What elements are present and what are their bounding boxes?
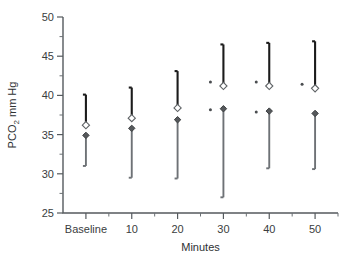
x-axis-tick-label: Baseline <box>65 223 107 235</box>
significance-marker <box>209 80 212 83</box>
y-axis-tick-label: 40 <box>42 89 54 101</box>
significance-marker <box>255 80 258 83</box>
filled-diamond-marker <box>174 117 180 123</box>
open-diamond-marker <box>311 85 318 92</box>
y-axis-tick-label: 25 <box>42 207 54 219</box>
open-diamond-marker <box>174 104 181 111</box>
axis-lines <box>63 17 338 213</box>
x-axis-tick-label: 40 <box>263 223 275 235</box>
y-axis-tick-label: 35 <box>42 129 54 141</box>
filled-diamond-marker <box>266 108 272 114</box>
open-diamond-marker <box>82 122 89 129</box>
y-axis-tick-label: 45 <box>42 50 54 62</box>
filled-diamond-marker <box>312 110 318 116</box>
pco2-scatter-chart: 253035404550Baseline1020304050MinutesPCO… <box>0 0 347 255</box>
significance-marker <box>255 111 258 114</box>
significance-marker <box>301 83 304 86</box>
open-diamond-marker <box>128 115 135 122</box>
open-diamond-marker <box>220 82 227 89</box>
y-axis-tick-label: 50 <box>42 11 54 23</box>
x-axis-tick-label: 10 <box>126 223 138 235</box>
significance-marker <box>209 108 212 111</box>
y-axis-title: PCO2 mm Hg <box>6 82 21 149</box>
open-diamond-marker <box>266 82 273 89</box>
x-axis-tick-label: 50 <box>309 223 321 235</box>
chart-container: 253035404550Baseline1020304050MinutesPCO… <box>0 0 347 255</box>
x-axis-title: Minutes <box>181 241 220 253</box>
x-axis-tick-label: 30 <box>217 223 229 235</box>
filled-diamond-marker <box>83 132 89 138</box>
y-axis-tick-label: 30 <box>42 168 54 180</box>
filled-diamond-marker <box>129 125 135 131</box>
x-axis-tick-label: 20 <box>171 223 183 235</box>
filled-diamond-marker <box>220 106 226 112</box>
